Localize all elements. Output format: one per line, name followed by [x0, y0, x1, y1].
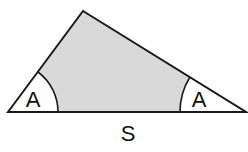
right-angle-label: A [192, 87, 207, 112]
base-side-label: S [121, 121, 136, 146]
left-angle-label: A [26, 87, 41, 112]
triangle-diagram: A A S [0, 0, 248, 152]
triangle-svg: A A S [0, 0, 248, 152]
